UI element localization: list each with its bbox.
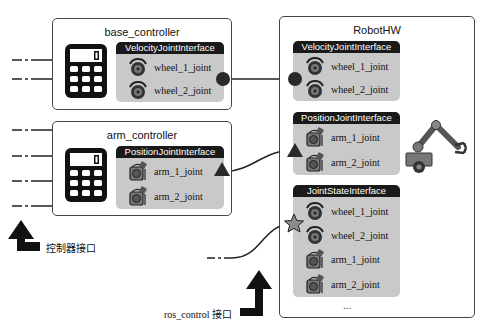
joint-row: arm_1_joint xyxy=(116,160,203,182)
joint-label: wheel_1_joint xyxy=(331,61,388,72)
joint-label: wheel_1_joint xyxy=(331,206,388,217)
joint-label: arm_1_joint xyxy=(154,166,203,177)
joint-row: wheel_2_joint xyxy=(293,78,388,100)
joint-row: wheel_1_joint xyxy=(293,200,388,222)
base-controller-inputs xyxy=(12,60,52,79)
ellipsis: ... xyxy=(343,300,351,311)
joint-row: wheel_1_joint xyxy=(116,56,211,78)
arm-controller-box: arm_controller PositionJointInterface ar… xyxy=(52,121,232,216)
robothw-position-interface: PositionJointInterface arm_1_joint arm_2… xyxy=(293,112,400,175)
robothw-velocity-interface: VelocityJointInterface wheel_1_joint whe… xyxy=(293,41,400,101)
joint-label: arm_2_joint xyxy=(331,279,380,290)
joint-label: arm_2_joint xyxy=(331,157,380,168)
wheel-icon xyxy=(305,56,325,76)
joint-row: arm_2_joint xyxy=(293,273,380,295)
joint-label: arm_1_joint xyxy=(331,254,380,265)
ros-control-arrow-icon xyxy=(240,270,272,316)
joint-label: wheel_1_joint xyxy=(154,62,211,73)
controller-interface-arrow-icon xyxy=(8,220,40,251)
calculator-icon xyxy=(64,43,108,99)
wheel-icon xyxy=(305,201,325,221)
robothw-title: RobotHW xyxy=(280,24,474,36)
arm-joint-icon xyxy=(305,127,325,147)
arm-position-interface: PositionJointInterface arm_1_joint arm_2… xyxy=(116,146,224,209)
base-velocity-interface: VelocityJointInterface wheel_1_joint whe… xyxy=(116,42,224,102)
joint-label: wheel_2_joint xyxy=(331,84,388,95)
ros-control-interface-label: ros_control 接口 xyxy=(164,306,232,321)
interface-header: VelocityJointInterface xyxy=(116,42,224,54)
interface-header: PositionJointInterface xyxy=(293,112,400,124)
joint-row: wheel_1_joint xyxy=(293,55,388,77)
base-controller-box: base_controller VelocityJointInterface w… xyxy=(52,18,232,110)
controller-interface-label: 控制器接口 xyxy=(46,240,96,255)
arm-joint-icon xyxy=(305,274,325,294)
joint-label: wheel_2_joint xyxy=(154,85,211,96)
joint-row: wheel_2_joint xyxy=(116,79,211,101)
joint-row: arm_2_joint xyxy=(293,151,380,173)
arm-joint-icon xyxy=(305,152,325,172)
interface-header: VelocityJointInterface xyxy=(293,41,400,53)
joint-row: arm_1_joint xyxy=(293,248,380,270)
joint-row: arm_1_joint xyxy=(293,126,380,148)
arm-controller-inputs xyxy=(12,130,52,206)
joint-label: wheel_2_joint xyxy=(331,230,388,241)
wheel-icon xyxy=(305,225,325,245)
robothw-box: RobotHW VelocityJointInterface wheel_1_j… xyxy=(279,16,475,318)
interface-header: JointStateInterface xyxy=(293,185,400,197)
calculator-icon xyxy=(64,147,108,203)
wheel-icon xyxy=(128,57,148,77)
arm-joint-icon xyxy=(128,186,148,206)
wheel-icon xyxy=(305,79,325,99)
joint-row: arm_2_joint xyxy=(116,185,203,207)
interface-header: PositionJointInterface xyxy=(116,146,224,158)
base-controller-title: base_controller xyxy=(53,26,231,38)
joint-label: arm_1_joint xyxy=(331,132,380,143)
joint-row: wheel_2_joint xyxy=(293,224,388,246)
arm-controller-title: arm_controller xyxy=(53,129,231,141)
arm-joint-icon xyxy=(305,249,325,269)
robothw-jointstate-interface: JointStateInterface wheel_1_joint wheel_… xyxy=(293,185,400,297)
wheel-icon xyxy=(128,80,148,100)
joint-label: arm_2_joint xyxy=(154,191,203,202)
arm-joint-icon xyxy=(128,161,148,181)
robot-arm-icon xyxy=(402,117,470,175)
